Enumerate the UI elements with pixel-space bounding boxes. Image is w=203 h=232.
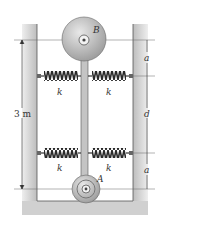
spring-k-label: k bbox=[106, 163, 111, 173]
disk-b bbox=[62, 17, 106, 61]
spring-k-label: k bbox=[57, 163, 62, 173]
dim-a-top-label: a bbox=[144, 53, 149, 63]
spring-k-label: k bbox=[57, 87, 62, 97]
disk-b-label: B bbox=[92, 25, 100, 35]
disk-a bbox=[72, 175, 100, 203]
lower-left-spring bbox=[37, 148, 81, 158]
dim-d-label: d bbox=[144, 109, 150, 119]
lower-right-spring bbox=[88, 148, 133, 158]
spring-k-label: k bbox=[106, 87, 111, 97]
upper-right-spring bbox=[88, 71, 133, 81]
spring-rod-diagram: B A k k k k 3 m a d a bbox=[0, 0, 203, 232]
upper-left-spring bbox=[37, 71, 81, 81]
dim-a-bottom-label: a bbox=[144, 165, 149, 175]
overall-height-label: 3 m bbox=[14, 109, 32, 119]
left-wall bbox=[22, 24, 37, 214]
rod bbox=[81, 40, 88, 190]
disk-a-label: A bbox=[96, 174, 104, 184]
